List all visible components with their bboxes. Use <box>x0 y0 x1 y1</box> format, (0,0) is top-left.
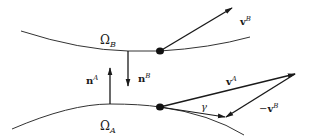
contact-point-a <box>156 104 164 111</box>
label-gamma: γ <box>201 101 207 112</box>
label-v-a: vA <box>225 75 237 87</box>
label-n-a: nA <box>86 74 98 86</box>
label-omega-b: ΩB <box>100 33 116 49</box>
vector-v-b-arrow <box>160 8 232 51</box>
contact-point-b <box>156 48 164 55</box>
label-v-b: vB <box>239 15 251 27</box>
contact-diagram: ΩB ΩA vB nB nA vA −vB γ <box>0 0 311 140</box>
label-n-b: nB <box>138 72 150 84</box>
relative-velocity-arrow <box>160 107 225 117</box>
label-neg-v-b: −vB <box>259 102 278 114</box>
label-omega-a: ΩA <box>100 119 116 135</box>
boundary-omega-b <box>21 31 250 51</box>
boundary-omega-a <box>12 104 244 135</box>
